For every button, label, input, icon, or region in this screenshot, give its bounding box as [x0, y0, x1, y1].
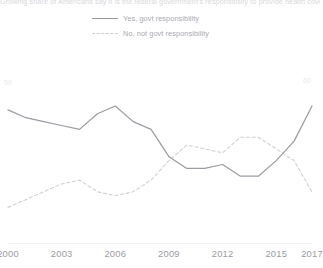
- start-value-label: 59: [4, 79, 12, 86]
- end-value-label: 60: [303, 77, 311, 84]
- x-axis-tick-2006: 2006: [104, 248, 126, 259]
- legend-label-no: No, not govt responsibility: [123, 29, 209, 38]
- legend-line-solid-icon: [92, 18, 118, 19]
- legend-label-yes: Yes, govt responsibility: [123, 14, 199, 23]
- chart-title: Growing share of Americans say it is the…: [0, 0, 320, 6]
- legend-item-no: No, not govt responsibility: [92, 26, 292, 41]
- legend-line-dashed-icon: [92, 33, 118, 34]
- plot-area: 59 60: [0, 55, 320, 235]
- x-axis-tick-2012: 2012: [212, 248, 234, 259]
- x-axis-tick-2017: 2017: [301, 248, 323, 259]
- x-axis-tick-2015: 2015: [265, 248, 287, 259]
- plot-svg: [0, 55, 320, 235]
- x-axis-tick-2000: 2000: [0, 248, 19, 259]
- x-axis-tick-2009: 2009: [158, 248, 180, 259]
- line-series-yes: [8, 106, 312, 176]
- axis-baseline: [8, 243, 312, 244]
- legend-item-yes: Yes, govt responsibility: [92, 11, 292, 26]
- chart-legend: Yes, govt responsibility No, not govt re…: [92, 11, 292, 41]
- line-series-no: [8, 137, 312, 207]
- x-axis-tick-2003: 2003: [51, 248, 73, 259]
- x-axis: 2000200320062009201220152017: [0, 248, 320, 264]
